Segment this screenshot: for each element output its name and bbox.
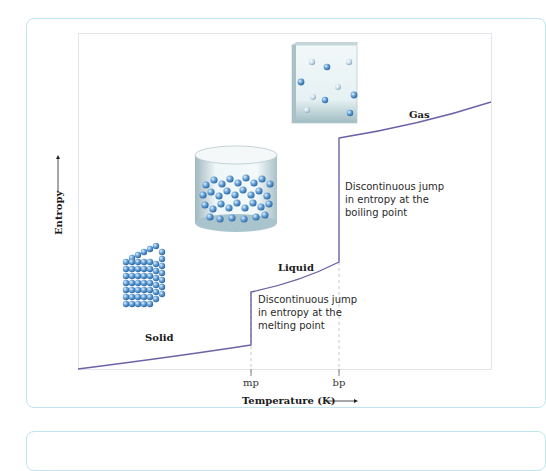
liquid-beaker-illustration <box>195 146 277 232</box>
svg-text:boiling point: boiling point <box>345 207 407 218</box>
solid-lattice-illustration <box>123 243 165 307</box>
svg-text:Entropy: Entropy <box>53 190 64 235</box>
svg-text:melting point: melting point <box>258 320 325 331</box>
x-axis-label: Temperature (K) <box>242 395 336 406</box>
solid-label: Solid <box>145 332 173 343</box>
boiling-note: Discontinuous jump in entropy at the boi… <box>345 181 444 218</box>
melting-note: Discontinuous jump in entropy at the mel… <box>258 294 357 331</box>
tick-mp: mp <box>243 377 259 388</box>
tick-bp: bp <box>333 377 346 388</box>
gas-label: Gas <box>409 109 430 120</box>
gas-box-illustration <box>292 42 358 123</box>
y-axis-label: Entropy <box>53 155 64 235</box>
svg-text:in entropy at the: in entropy at the <box>345 194 429 205</box>
svg-text:Discontinuous jump: Discontinuous jump <box>258 294 357 305</box>
svg-text:Discontinuous jump: Discontinuous jump <box>345 181 444 192</box>
svg-text:in entropy at the: in entropy at the <box>258 307 342 318</box>
liquid-label: Liquid <box>278 262 314 273</box>
